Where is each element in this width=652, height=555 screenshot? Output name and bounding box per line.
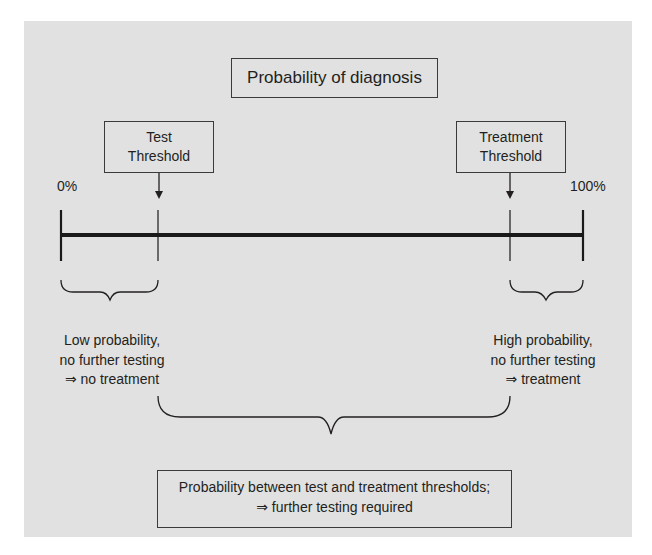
- low-line1: Low probability,: [56, 331, 168, 351]
- high-line2: no further testing: [488, 351, 598, 371]
- low-probability-description: Low probability, no further testing ⇒ no…: [56, 331, 168, 390]
- high-line3: ⇒ treatment: [488, 370, 598, 390]
- high-line1: High probability,: [488, 331, 598, 351]
- test-threshold-arrow-icon: [155, 173, 163, 199]
- low-region-brace-icon: [61, 280, 158, 300]
- high-probability-description: High probability, no further testing ⇒ t…: [488, 331, 598, 390]
- treatment-threshold-arrow-icon: [506, 173, 514, 199]
- middle-region-brace-icon: [158, 396, 510, 434]
- middle-line2: ⇒ further testing required: [158, 497, 511, 517]
- low-line2: no further testing: [56, 351, 168, 371]
- middle-region-box: Probability between test and treatment t…: [157, 470, 512, 528]
- high-region-brace-icon: [510, 280, 583, 300]
- middle-line1: Probability between test and treatment t…: [158, 477, 511, 497]
- low-line3: ⇒ no treatment: [56, 370, 168, 390]
